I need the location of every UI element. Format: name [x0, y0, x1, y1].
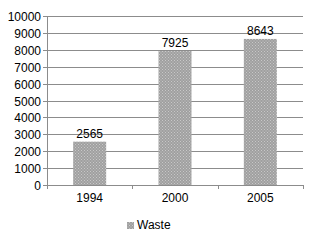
y-tick-label: 0 [34, 179, 41, 193]
y-tick-label: 2000 [14, 145, 41, 159]
bar-2005 [244, 39, 277, 185]
data-label: 7925 [162, 36, 189, 50]
y-tick-label: 3000 [14, 128, 41, 142]
legend: Waste [127, 218, 171, 232]
legend-swatch [127, 222, 134, 229]
x-tick-label: 1994 [76, 191, 103, 205]
x-axis-ticks: 199420002005 [76, 191, 274, 205]
y-tick-label: 7000 [14, 61, 41, 75]
x-tick-label: 2005 [247, 191, 274, 205]
bar-2000 [159, 51, 192, 185]
y-tick-label: 4000 [14, 111, 41, 125]
y-tick-label: 8000 [14, 44, 41, 58]
y-tick-label: 5000 [14, 95, 41, 109]
bar-chart: 0100020003000400050006000700080009000100… [0, 0, 315, 236]
legend-label: Waste [137, 218, 171, 232]
data-label: 8643 [247, 24, 274, 38]
y-tick-label: 9000 [14, 27, 41, 41]
y-axis-ticks: 0100020003000400050006000700080009000100… [8, 10, 42, 193]
bar-1994 [73, 142, 106, 185]
x-tick-label: 2000 [162, 191, 189, 205]
data-label: 2565 [76, 127, 103, 141]
bars: 256579258643 [73, 24, 277, 185]
y-tick-label: 1000 [14, 162, 41, 176]
y-tick-label: 10000 [8, 10, 42, 24]
y-tick-label: 6000 [14, 78, 41, 92]
